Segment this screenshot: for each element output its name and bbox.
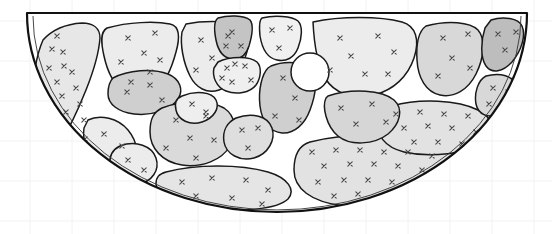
half-disk-diagram xyxy=(0,0,552,234)
figure-root xyxy=(0,0,552,234)
circular-void xyxy=(291,53,329,91)
circular-void-layer xyxy=(291,53,329,91)
cell-region-top-dark-small xyxy=(215,16,253,59)
